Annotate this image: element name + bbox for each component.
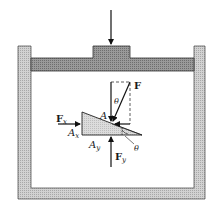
label-theta-bottom: θ [134,144,139,153]
piston [31,46,194,71]
diagram-canvas: F θ A Fx Ax Ay Fy θ [0,0,218,207]
theta-leader-line [125,136,134,144]
label-point-a: A [99,110,107,121]
label-ax: Ax [67,127,79,140]
label-theta-top: θ [114,97,119,106]
label-ay: Ay [88,139,101,152]
label-fy: Fy [115,151,127,164]
label-force: F [134,80,141,91]
